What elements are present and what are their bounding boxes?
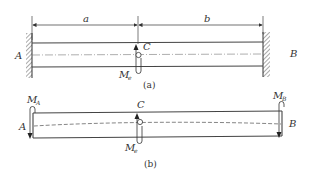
- dimension-a-label: a: [83, 13, 89, 24]
- support-a-label-b: A: [18, 121, 26, 132]
- beam-b-bottom-edge: [33, 136, 282, 138]
- caption-a: (a): [143, 80, 155, 90]
- support-b-label-b: B: [288, 118, 296, 129]
- support-b-label: B: [289, 48, 297, 59]
- dimension-b-label: b: [204, 13, 210, 24]
- moment-c-loop: [137, 126, 142, 144]
- moment-ma-sub: A: [35, 99, 41, 106]
- beam-b-top-edge: [33, 111, 282, 113]
- beam-bottom-edge: [32, 66, 263, 67]
- support-a-label: A: [14, 50, 22, 61]
- moment-me-sub-b: e: [134, 147, 138, 154]
- figure-a: a b C M e A B (a): [14, 13, 297, 90]
- beam-centerline: [32, 54, 263, 55]
- fixed-support-right-hatch: [263, 32, 270, 77]
- moment-b-arrow-head: [277, 132, 282, 138]
- moment-loop: [136, 58, 141, 74]
- moment-a-arrow-head: [28, 133, 33, 139]
- moment-c-arrow-head: [135, 113, 140, 119]
- figure-b: M A A M B B C M e (b): [18, 90, 296, 169]
- moment-arrow-head: [134, 44, 139, 50]
- deflection-curve: [34, 122, 281, 126]
- caption-b: (b): [144, 159, 157, 169]
- point-c-label-b: C: [137, 99, 145, 110]
- beam-diagram: a b C M e A B (a) M A: [0, 0, 315, 177]
- point-c-hinge: [136, 52, 141, 57]
- moment-mb-sub: B: [281, 95, 287, 102]
- point-c-label: C: [143, 41, 151, 52]
- point-c-hinge-b: [137, 119, 142, 124]
- fixed-support-left-hatch: [26, 33, 32, 78]
- moment-me-sub: e: [128, 74, 132, 81]
